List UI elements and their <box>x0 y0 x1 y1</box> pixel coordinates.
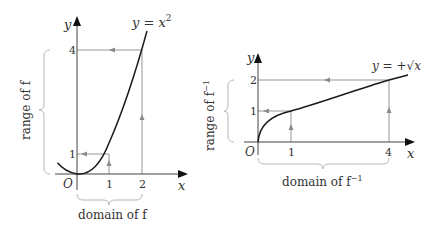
left-guide-arrowheads <box>81 48 145 167</box>
left-x-tick-1: 1 <box>106 178 113 191</box>
range-inverse-label: range of f−1 <box>202 80 217 151</box>
domain-brace <box>77 194 142 205</box>
right-x-tick-4: 4 <box>385 146 392 159</box>
left-origin-label: O <box>63 177 73 191</box>
arrow-left-icon <box>324 78 330 83</box>
left-y-tick-4: 4 <box>69 44 76 57</box>
domain-inverse-label: domain of f−1 <box>282 174 363 189</box>
left-x-axis-label: x <box>178 178 186 193</box>
arrow-up-icon <box>387 107 392 113</box>
right-graph: y x O 1 4 1 2 y = +√x range of f−1 domai… <box>202 50 421 189</box>
right-origin-label: O <box>245 145 255 159</box>
inverse-function-diagram: y x O 1 2 1 4 y = x2 range of f domain o… <box>0 0 437 235</box>
left-y-axis-label: y <box>63 17 72 32</box>
right-guide-lines <box>258 80 389 142</box>
arrow-up-icon <box>140 114 145 120</box>
right-y-axis-label: y <box>246 50 255 65</box>
arrow-left-icon <box>109 48 115 53</box>
left-curve-label: y = x2 <box>131 13 172 30</box>
domain-inverse-brace <box>258 158 389 169</box>
arrow-left-icon <box>81 152 87 157</box>
arrow-up-icon <box>289 124 294 130</box>
right-y-tick-1: 1 <box>250 105 257 118</box>
left-x-tick-2: 2 <box>139 178 146 191</box>
right-curve-label: y = +√x <box>371 59 421 73</box>
arrow-left-icon <box>263 109 269 114</box>
right-y-tick-2: 2 <box>250 74 257 87</box>
range-label: range of f <box>19 79 33 140</box>
right-x-tick-1: 1 <box>288 146 295 159</box>
sqrt-curve <box>258 75 408 142</box>
range-brace <box>39 50 50 174</box>
left-y-tick-1: 1 <box>69 148 76 161</box>
range-inverse-brace <box>224 80 234 142</box>
arrow-up-icon <box>107 160 112 166</box>
right-x-axis-label: x <box>407 146 415 161</box>
left-graph: y x O 1 2 1 4 y = x2 range of f domain o… <box>19 13 186 222</box>
domain-label: domain of f <box>78 208 148 222</box>
